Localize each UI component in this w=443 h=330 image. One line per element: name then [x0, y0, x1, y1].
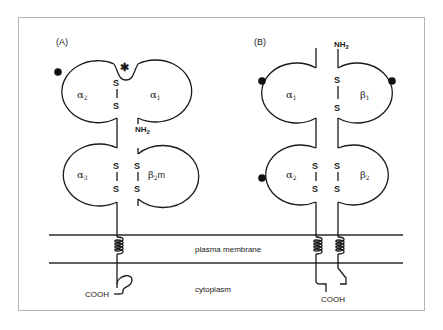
disulfide-s-bottom: S [334, 184, 340, 194]
glycosylation-site-dot [258, 174, 266, 182]
c-terminus-label: COOH [85, 290, 109, 299]
alpha3-label: α3 [77, 169, 88, 181]
panel-a-label: (A) [56, 37, 68, 47]
disulfide-s-bottom: S [312, 184, 318, 194]
alpha1-label: α1 [286, 89, 297, 101]
beta-cytoplasmic-tail [338, 254, 346, 284]
alpha3-domain-loop [63, 144, 117, 206]
n-terminus-label: NH2 [334, 40, 350, 50]
disulfide-s-top: S [334, 75, 340, 85]
glycosylation-site-dot [388, 77, 396, 85]
disulfide-s-bottom: S [134, 184, 140, 194]
disulfide-s-bottom: S [113, 101, 119, 111]
plasma-membrane-label: plasma membrane [195, 245, 262, 254]
n-terminus-label: NH2 [135, 125, 151, 135]
beta2-label: β2 [360, 169, 370, 181]
panel-b-class-ii: (B) α1 α2 S S NH2 S S S [254, 37, 396, 304]
disulfide-s-bottom: S [334, 103, 340, 113]
diagram-canvas: plasma membrane cytoplasm (A) ✱ S S NH2 … [0, 0, 443, 330]
c-terminus-label: COOH [321, 295, 345, 304]
transmembrane-helix [115, 237, 123, 254]
beta-transmembrane-helix [336, 237, 344, 254]
cytoplasm-label: cytoplasm [195, 285, 231, 294]
alpha2-domain-loop [62, 61, 117, 123]
glycosylation-site-dot [258, 77, 266, 85]
alpha2-label: α2 [77, 89, 88, 101]
glycosylation-site-dot [54, 68, 62, 76]
disulfide-s-top: S [113, 161, 119, 171]
mhc-molecules-diagram: plasma membrane cytoplasm (A) ✱ S S NH2 … [0, 0, 443, 330]
alpha1-domain-loop [138, 60, 192, 122]
disulfide-s-top: S [312, 161, 318, 171]
alpha2-label: α2 [286, 169, 297, 181]
disulfide-s-bottom: S [113, 184, 119, 194]
cytoplasmic-loop [117, 276, 132, 294]
disulfide-s-top: S [113, 78, 119, 88]
beta2m-label: β2m [148, 169, 165, 181]
asterisk-icon: ✱ [120, 61, 129, 73]
alpha-transmembrane-helix [314, 237, 322, 254]
panel-b-label: (B) [254, 37, 266, 47]
disulfide-s-top: S [334, 161, 340, 171]
beta1-label: β1 [360, 89, 370, 101]
alpha-cytoplasmic-tail [316, 254, 326, 292]
alpha1-label: α1 [150, 89, 161, 101]
panel-a-class-i: (A) ✱ S S NH2 α2 α1 S S [54, 37, 199, 299]
disulfide-s-top: S [134, 161, 140, 171]
